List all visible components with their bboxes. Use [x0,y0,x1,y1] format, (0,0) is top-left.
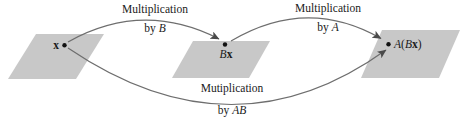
point-x-label: x [53,39,59,51]
point-abx-dot [386,42,390,46]
point-bx-dot [223,42,227,46]
label-multiplication-by-a: Multiplication by A [295,2,361,33]
label-multiplication-by-a-operand: by A [295,21,361,34]
point-bx-label: Bx [220,48,233,60]
label-multiplication-by-a-word: Multiplication [295,2,361,15]
matrix-composition-diagram: Multiplication by B Multiplication by A … [0,0,466,127]
point-x-dot [62,43,66,47]
label-multiplication-by-b-operand: by B [122,22,188,35]
point-abx-label: A(Bx) [394,38,422,50]
label-multiplication-by-ab-operand: by AB [218,104,246,117]
label-multiplication-by-ab-word: Mutiplication [201,82,264,95]
label-multiplication-by-b-word: Multiplication [122,3,188,16]
label-multiplication-by-b: Multiplication by B [122,3,188,34]
